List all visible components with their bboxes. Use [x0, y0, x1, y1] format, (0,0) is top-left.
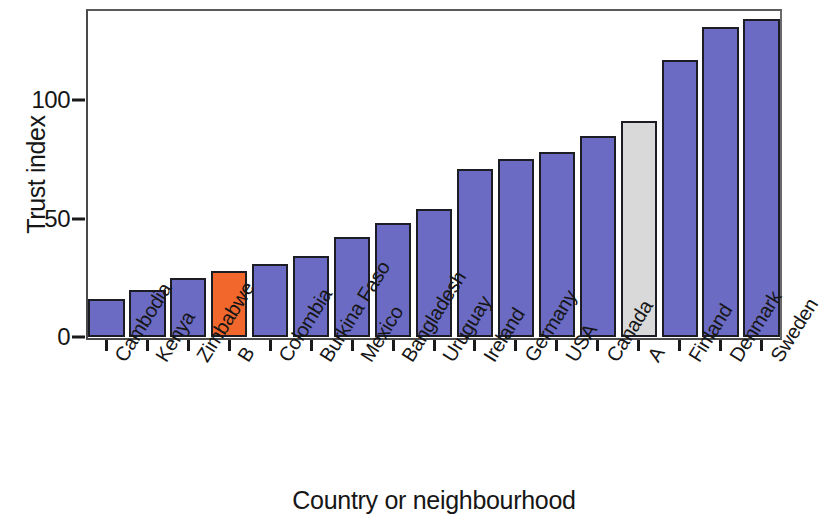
y-axis-tick-label: 50: [8, 205, 70, 233]
x-axis-tick-mark: [105, 340, 108, 351]
x-axis-tick-marks: [86, 340, 782, 352]
x-axis-tick-mark: [392, 340, 395, 351]
x-axis-tick-mark: [228, 340, 231, 351]
x-axis-tick-mark: [637, 340, 640, 351]
y-axis-tick-mark: [72, 217, 85, 220]
x-axis-category-labels: CambodiaKenyaZimbabweBColombiaBurkina Fa…: [86, 354, 782, 484]
x-axis-tick-mark: [555, 340, 558, 351]
x-axis-tick-mark: [678, 340, 681, 351]
x-axis-tick-mark: [760, 340, 763, 351]
x-axis-tick-mark: [269, 340, 272, 351]
plot-area-frame: [86, 9, 782, 340]
x-axis-tick-mark: [514, 340, 517, 351]
x-axis-tick-mark: [719, 340, 722, 351]
x-axis-title: Country or neighbourhood: [86, 486, 782, 515]
x-axis-tick-mark: [310, 340, 313, 351]
x-axis-tick-mark: [146, 340, 149, 351]
x-axis-tick-mark: [351, 340, 354, 351]
x-axis-tick-mark: [596, 340, 599, 351]
x-axis-tick-mark: [473, 340, 476, 351]
y-axis-tick-labels: 050100: [8, 0, 70, 531]
y-axis-tick-label: 100: [8, 86, 70, 114]
y-axis-tick-mark: [72, 336, 85, 339]
x-axis-tick-mark: [187, 340, 190, 351]
x-axis-tick-mark: [433, 340, 436, 351]
y-axis-tick-label: 0: [8, 323, 70, 351]
y-axis-tick-mark: [72, 99, 85, 102]
